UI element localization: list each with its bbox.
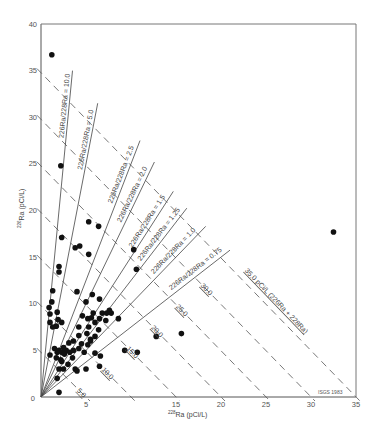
data-point — [54, 349, 60, 355]
data-point — [90, 292, 96, 298]
data-point — [62, 351, 68, 357]
data-point — [47, 352, 53, 358]
data-point — [96, 327, 102, 333]
line-labels: 5.010.015.020.025.030.035.0 pCi/L (226Ra… — [58, 73, 310, 399]
data-point — [84, 331, 90, 337]
data-point — [92, 320, 98, 326]
data-point — [92, 350, 98, 356]
data-point — [50, 288, 56, 294]
data-point — [77, 243, 83, 249]
data-point — [83, 299, 89, 305]
data-point — [47, 320, 53, 326]
y-tick-label: 5 — [33, 346, 37, 355]
y-tick-label: 25 — [29, 159, 37, 168]
data-point — [80, 313, 86, 319]
data-point — [56, 390, 62, 396]
radium-isotope-scatter-chart: 510152025303540051520253035 5.010.015.02… — [0, 0, 380, 431]
data-point — [116, 316, 122, 322]
ratio-label: 226Ra/228Ra = 1.5 — [127, 193, 166, 248]
x-tick-label: 25 — [262, 400, 270, 409]
ratio-line — [41, 162, 154, 397]
data-point — [56, 269, 62, 275]
data-point — [54, 309, 60, 315]
y-tick-label: 10 — [29, 299, 37, 308]
data-point — [86, 219, 92, 225]
data-point — [71, 348, 77, 354]
iso-sum-label: 25.0 — [175, 303, 190, 318]
data-point — [79, 341, 85, 347]
data-point — [331, 229, 337, 235]
x-tick-label: 15 — [172, 400, 180, 409]
data-point — [70, 355, 76, 361]
iso-sum-label: 15.0 — [125, 345, 140, 360]
y-tick-label: 40 — [29, 20, 37, 29]
y-tick-label: 20 — [29, 206, 37, 215]
origin-label: 0 — [31, 394, 35, 403]
data-point — [103, 318, 109, 324]
data-point — [74, 289, 80, 295]
data-point — [76, 324, 82, 330]
data-point — [54, 376, 60, 382]
data-point — [97, 316, 103, 322]
y-axis-title: 226Ra (pCi/L) — [17, 189, 26, 228]
data-point — [50, 324, 56, 330]
data-point — [56, 366, 62, 372]
data-point — [97, 363, 103, 369]
data-point — [49, 52, 55, 58]
data-point — [66, 340, 72, 346]
x-tick-label: 35 — [352, 400, 360, 409]
data-point — [179, 331, 185, 337]
data-point — [65, 362, 71, 368]
y-tick-label: 35 — [29, 66, 37, 75]
data-point — [96, 224, 102, 230]
x-tick-label: 20 — [217, 400, 225, 409]
x-axis-title: 228Ra (pCi/L) — [168, 410, 207, 419]
y-tick-label: 15 — [29, 253, 37, 262]
data-point — [134, 266, 140, 272]
data-point — [88, 338, 94, 344]
data-point — [98, 353, 104, 359]
data-point — [59, 359, 65, 365]
data-point — [49, 299, 55, 305]
data-point — [61, 345, 67, 351]
data-point — [56, 264, 62, 270]
y-tick-label: 30 — [29, 113, 37, 122]
data-point — [74, 368, 80, 374]
x-tick-label: 30 — [307, 400, 315, 409]
ratio-label: 226Ra/228Ra = 5.0 — [76, 109, 94, 170]
iso-sum-label: 30.0 — [200, 282, 215, 297]
data-point — [83, 366, 89, 372]
data-point — [59, 235, 65, 241]
x-tick-label: 5 — [84, 400, 88, 409]
data-point — [92, 334, 98, 340]
data-point — [76, 346, 82, 352]
data-points — [46, 52, 336, 395]
data-point — [46, 305, 52, 311]
data-point — [81, 349, 87, 355]
data-point — [47, 311, 53, 317]
iso-sum-label: 35.0 pCi/L (226Ra + 228Ra) — [243, 267, 310, 336]
data-point — [76, 333, 82, 339]
data-point — [58, 163, 64, 169]
data-point — [90, 310, 96, 316]
data-point — [97, 296, 103, 302]
iso-sum-label: 10.0 — [101, 366, 116, 381]
credit-label: ISGS 1983 — [318, 389, 343, 395]
data-point — [86, 252, 92, 258]
data-point — [86, 324, 92, 330]
data-point — [108, 310, 114, 316]
data-point — [59, 320, 65, 326]
